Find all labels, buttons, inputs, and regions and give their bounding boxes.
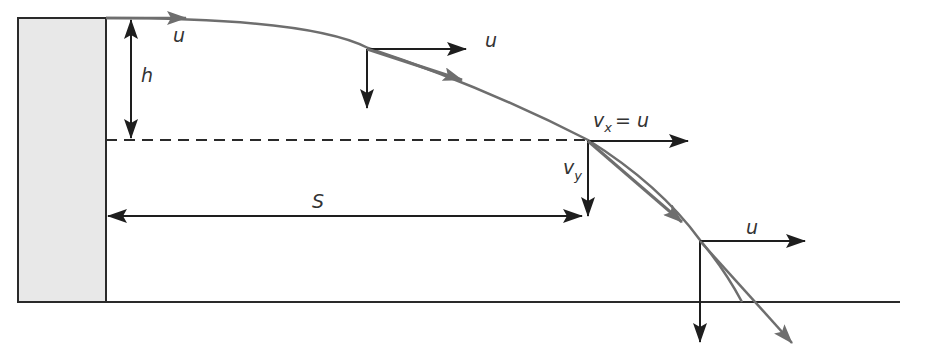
- horizontal-velocity-label-3: u: [746, 216, 758, 238]
- resultant-velocity-arrow-3: [700, 241, 792, 343]
- horizontal-velocity-label-1: u: [485, 29, 497, 51]
- projectile-diagram: u h u vx= u vy S u: [0, 0, 925, 357]
- resultant-velocity-arrow-1: [367, 49, 462, 80]
- cliff: [18, 18, 106, 302]
- initial-velocity-label: u: [173, 24, 185, 46]
- vx-label: vx= u: [593, 109, 649, 135]
- resultant-velocity-arrow-2: [588, 141, 682, 222]
- trajectory-curve: [106, 18, 742, 302]
- height-label: h: [141, 64, 153, 86]
- range-label: S: [312, 190, 324, 212]
- vy-label: vy: [563, 156, 582, 183]
